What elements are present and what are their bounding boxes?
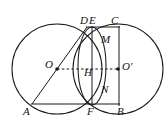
point-label-F: F xyxy=(87,106,94,117)
point-label-D: D xyxy=(80,15,88,26)
point-label-O-prime: O' xyxy=(122,61,132,72)
center-dot-O xyxy=(55,67,59,71)
point-label-M: M xyxy=(101,34,110,45)
point-label-E: E xyxy=(89,15,96,26)
point-label-H: H xyxy=(84,67,92,78)
geometry-figure: D E C M O O' H N A F B xyxy=(0,0,167,132)
segment-AD xyxy=(32,27,87,104)
point-label-C: C xyxy=(111,15,118,26)
point-label-O: O xyxy=(45,59,53,70)
point-label-N: N xyxy=(101,84,108,95)
center-dot-O-prime xyxy=(116,67,120,71)
point-label-A: A xyxy=(23,106,30,117)
point-label-B: B xyxy=(117,106,124,117)
